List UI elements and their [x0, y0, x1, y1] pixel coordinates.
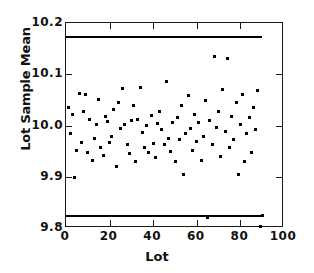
data-point: [93, 137, 96, 140]
data-point: [106, 120, 109, 123]
data-point: [171, 121, 174, 124]
data-point: [102, 154, 105, 157]
data-point: [134, 160, 137, 163]
data-point: [158, 110, 161, 113]
data-point: [235, 101, 238, 104]
data-point: [217, 110, 220, 113]
data-point: [147, 151, 150, 154]
data-point: [239, 123, 242, 126]
data-point: [226, 57, 229, 60]
y-tick-mark: [276, 126, 282, 127]
data-point: [67, 106, 70, 109]
data-point: [119, 127, 122, 130]
x-tick-label: 60: [176, 229, 216, 243]
data-point: [228, 146, 231, 149]
x-tick-mark: [240, 220, 241, 226]
data-point: [88, 118, 91, 121]
data-point: [126, 143, 129, 146]
data-point: [174, 160, 177, 163]
data-point: [97, 98, 100, 101]
data-point: [261, 214, 264, 217]
data-point: [256, 89, 259, 92]
data-point: [139, 86, 142, 89]
data-point: [132, 104, 135, 107]
data-point: [110, 135, 113, 138]
data-point: [241, 93, 244, 96]
data-point: [200, 159, 203, 162]
data-point: [156, 122, 159, 125]
data-point: [193, 113, 196, 116]
y-tick-label: 10.2: [7, 15, 63, 29]
data-point: [178, 138, 181, 141]
data-point: [108, 141, 111, 144]
data-point: [145, 124, 148, 127]
data-point: [252, 106, 255, 109]
data-point: [78, 92, 81, 95]
data-point: [215, 126, 218, 129]
data-point: [211, 143, 214, 146]
data-point: [204, 99, 207, 102]
data-point: [104, 115, 107, 118]
data-point: [141, 131, 144, 134]
data-point: [195, 140, 198, 143]
data-point: [259, 225, 262, 228]
data-point: [115, 165, 118, 168]
x-tick-mark: [110, 23, 111, 29]
x-tick-mark: [197, 220, 198, 226]
x-tick-label: 100: [263, 229, 303, 243]
data-point: [73, 176, 76, 179]
data-point: [213, 55, 216, 58]
x-tick-label: 0: [45, 229, 85, 243]
data-point: [117, 101, 120, 104]
x-tick-label: 40: [132, 229, 172, 243]
data-point: [254, 128, 257, 131]
data-point: [130, 119, 133, 122]
data-point: [176, 116, 179, 119]
data-point: [82, 110, 85, 113]
data-point: [99, 146, 102, 149]
data-point: [167, 137, 170, 140]
x-tick-mark: [197, 23, 198, 29]
data-point: [80, 141, 83, 144]
data-point: [165, 80, 168, 83]
x-tick-mark: [110, 220, 111, 226]
data-point: [75, 149, 78, 152]
data-point: [232, 138, 235, 141]
data-point: [224, 130, 227, 133]
y-tick-mark: [276, 177, 282, 178]
data-point: [189, 127, 192, 130]
data-point: [128, 152, 131, 155]
data-point: [112, 108, 115, 111]
data-point: [91, 159, 94, 162]
data-point: [245, 132, 248, 135]
y-tick-label: 10.1: [7, 66, 63, 80]
data-point: [152, 142, 155, 145]
control-chart: Lot Sample Mean Lot 9.89.910.010.110.2 0…: [0, 0, 314, 273]
x-tick-mark: [153, 23, 154, 29]
upper-control-limit: [66, 36, 262, 38]
data-point: [86, 151, 89, 154]
data-point: [248, 116, 251, 119]
data-point: [163, 143, 166, 146]
x-tick-mark: [240, 23, 241, 29]
x-tick-label: 80: [219, 229, 259, 243]
y-tick-mark: [66, 74, 72, 75]
data-point: [208, 119, 211, 122]
data-point: [243, 160, 246, 163]
x-tick-mark: [153, 220, 154, 226]
data-point: [169, 150, 172, 153]
data-point: [184, 132, 187, 135]
plot-area: [65, 22, 283, 227]
y-tick-mark: [66, 126, 72, 127]
y-axis-label: Lot Sample Mean: [15, 9, 37, 169]
data-point: [182, 173, 185, 176]
lower-control-limit: [66, 215, 262, 217]
data-point: [69, 132, 72, 135]
data-point: [221, 88, 224, 91]
data-point: [154, 156, 157, 159]
data-point: [143, 146, 146, 149]
data-point: [206, 216, 209, 219]
data-point: [250, 151, 253, 154]
data-point: [197, 121, 200, 124]
data-point: [123, 123, 126, 126]
